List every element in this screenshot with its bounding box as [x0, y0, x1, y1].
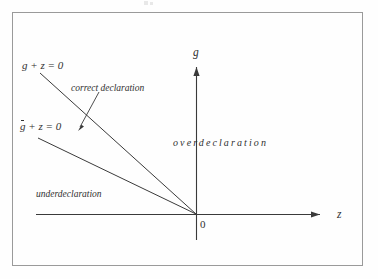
label-upper-line-equation: g + z = 0 — [22, 60, 63, 71]
label-y-axis-g: g — [193, 47, 199, 59]
x-axis-arrowhead — [311, 211, 320, 217]
y-axis-arrowhead — [193, 67, 199, 76]
correct-declaration-pointer-arrow — [78, 92, 99, 131]
ray-gbar-plus-z — [38, 138, 196, 214]
label-correct-declaration: correct declaration — [71, 84, 144, 94]
label-lower-line-equation-symbol: g — [20, 121, 26, 132]
figure-container: g + z = 0 g + z = 0 correct declaration … — [0, 0, 378, 279]
label-origin-zero: 0 — [200, 219, 206, 230]
x-axis — [36, 211, 320, 217]
label-upper-line-equation-rest: + z = 0 — [28, 59, 64, 71]
label-lower-line-equation: g + z = 0 — [20, 121, 61, 132]
label-overdeclaration: overdeclaration — [173, 138, 268, 148]
label-underdeclaration: underdeclaration — [36, 190, 102, 200]
label-lower-line-equation-rest: + z = 0 — [26, 120, 62, 132]
label-x-axis-z: z — [337, 209, 341, 221]
